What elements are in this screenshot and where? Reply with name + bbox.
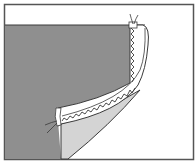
facing-end-tab bbox=[55, 108, 61, 126]
diagram-canvas bbox=[0, 0, 196, 162]
hem-illustration bbox=[0, 0, 196, 162]
